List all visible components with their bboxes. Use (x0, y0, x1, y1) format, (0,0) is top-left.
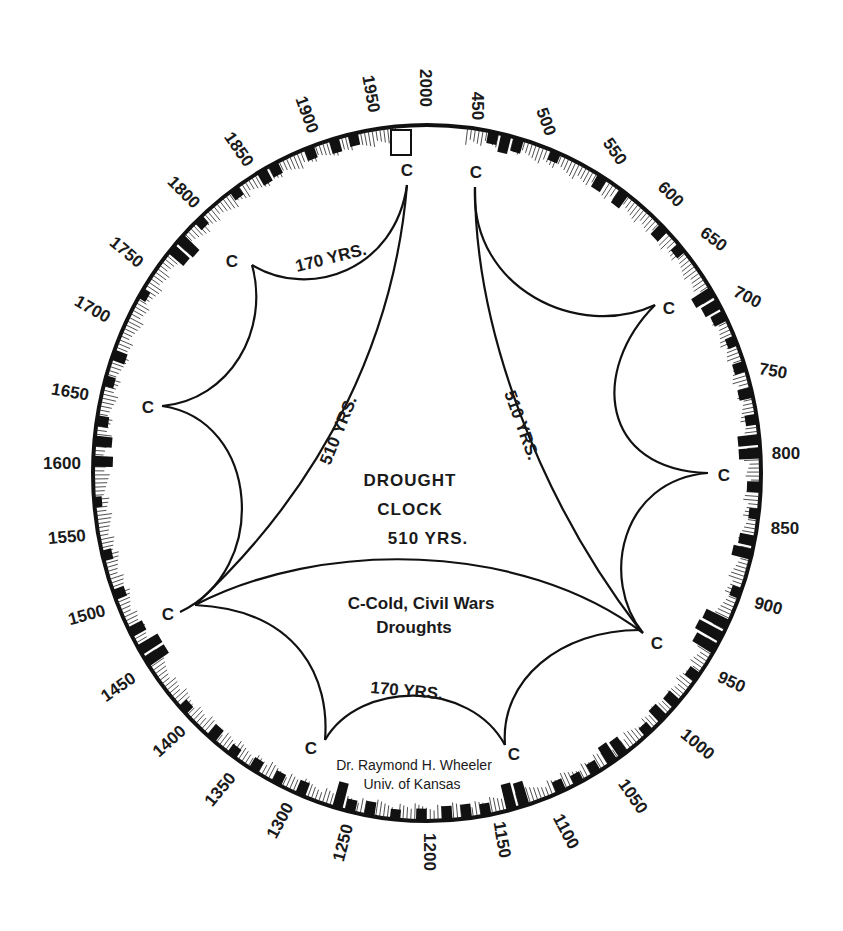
drought-bar (671, 244, 685, 259)
tick-mark (384, 128, 386, 142)
year-label-1650: 1650 (50, 379, 91, 404)
tick-mark (120, 336, 129, 340)
drought-bar (179, 699, 193, 714)
tick-mark (726, 599, 737, 603)
tick-mark (578, 165, 583, 175)
drought-bar (739, 448, 761, 460)
tick-mark (330, 793, 334, 806)
tick-mark (101, 398, 116, 401)
tick-mark (407, 807, 408, 820)
tick-mark (107, 568, 118, 571)
year-label-1200: 1200 (420, 833, 439, 871)
tick-mark (675, 686, 685, 694)
tick-mark (315, 790, 319, 801)
tick-mark (319, 144, 323, 155)
arc-lower-left (195, 605, 326, 740)
tick-mark (123, 328, 135, 334)
tick-mark (541, 787, 545, 798)
tick-mark (326, 791, 330, 805)
tick-mark (477, 129, 479, 143)
tick-mark (526, 142, 529, 153)
tick-mark (731, 572, 746, 577)
tick-mark (101, 545, 113, 548)
tick-mark (207, 211, 216, 222)
tick-mark (411, 809, 412, 821)
tick-mark (364, 131, 367, 145)
year-label-1700: 1700 (71, 291, 113, 326)
tick-mark (99, 537, 114, 540)
year-label-650: 650 (697, 223, 731, 255)
tick-mark (493, 798, 496, 814)
tick-mark (110, 579, 123, 584)
tick-mark (723, 602, 735, 607)
tick-mark (694, 283, 707, 292)
tick-mark (693, 279, 705, 287)
tick-mark (169, 685, 179, 693)
drought-bar (731, 545, 752, 560)
tick-mark (109, 366, 121, 370)
tick-mark (174, 689, 187, 700)
tick-mark (742, 411, 756, 414)
tick-mark (245, 181, 250, 190)
c-bottom-left-marker: C (305, 739, 317, 758)
tick-mark (100, 541, 114, 544)
tick-mark (387, 805, 389, 818)
drought-bar (329, 137, 343, 154)
tick-mark (286, 158, 291, 170)
tick-mark (322, 788, 327, 803)
tick-mark (720, 329, 732, 334)
tick-mark (691, 660, 704, 669)
year-label-800: 800 (772, 444, 800, 463)
tick-mark (738, 562, 749, 565)
arc-top-right (475, 187, 655, 316)
label-510-left: 510 YRS. (316, 393, 361, 467)
tick-mark (195, 714, 204, 724)
center-title: DROUGHT CLOCK 510 YRS. (364, 471, 469, 548)
tick-mark (569, 162, 576, 176)
arc-upper-right (614, 305, 708, 473)
tick-mark (727, 352, 740, 357)
arc-bottom-170 (325, 696, 505, 745)
tick-mark (745, 431, 759, 433)
tick-mark (533, 787, 538, 801)
c-lower-left-marker: C (162, 605, 174, 624)
year-label-1850: 1850 (220, 128, 257, 170)
tick-mark (96, 518, 111, 520)
arc-right (621, 473, 708, 633)
drought-bar (460, 804, 472, 820)
c-lower-right-marker: C (651, 634, 663, 653)
year-label-1250: 1250 (329, 822, 357, 863)
tick-mark (561, 156, 566, 167)
tick-mark (164, 678, 176, 688)
drought-bar (479, 802, 491, 816)
tick-mark (102, 394, 118, 398)
tick-mark (376, 800, 379, 817)
tick-mark (742, 531, 756, 534)
tick-mark (681, 259, 691, 267)
year-label-600: 600 (654, 178, 687, 211)
tick-mark (282, 159, 287, 170)
year-label-1950: 1950 (358, 74, 383, 115)
tick-mark (631, 730, 640, 741)
tick-mark (162, 678, 170, 684)
main-triangle-left-side (195, 185, 407, 605)
label-170-top-left: 170 YRS. (293, 240, 368, 276)
tick-mark (148, 282, 162, 292)
drought-bar (441, 806, 452, 821)
cycle-curves (162, 185, 708, 745)
drought-bar (416, 809, 426, 821)
tick-mark (380, 129, 382, 142)
tick-mark (109, 575, 124, 580)
legend-line-2: Droughts (376, 618, 452, 637)
cusp-c-markers: CCCCCCCCCC (142, 161, 730, 764)
tick-mark (99, 406, 111, 409)
year-label-1350: 1350 (201, 769, 240, 810)
tick-mark (744, 460, 761, 461)
tick-mark (529, 143, 533, 156)
year-label-450: 450 (468, 92, 487, 120)
tick-mark (372, 130, 375, 147)
tick-mark (683, 266, 695, 276)
tick-mark (120, 606, 130, 611)
drought-bar (747, 481, 761, 492)
c-bottom-right-marker: C (508, 745, 520, 764)
